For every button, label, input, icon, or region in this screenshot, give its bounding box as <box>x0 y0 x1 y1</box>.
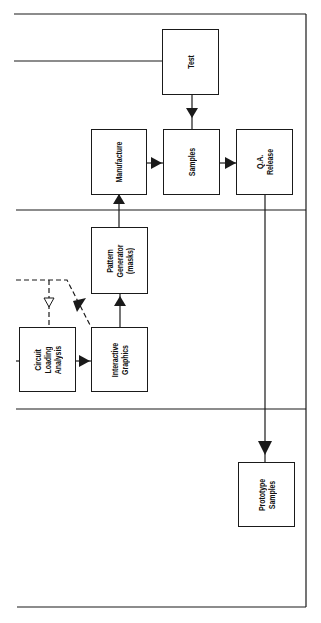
hollow-arrow-dashed-drop <box>44 298 54 307</box>
box-circuit-loading-analysis-label: Circuit Loading Analysis <box>33 341 63 377</box>
arrow-patterngen-to-manufacture <box>113 194 125 204</box>
arrow-test-to-samples <box>186 108 198 118</box>
box-manufacture: Manufacture <box>91 129 147 195</box>
box-pattern-generator: Pattern Generator (masks) <box>91 227 148 294</box>
box-samples: Samples <box>163 129 220 195</box>
box-prototype-samples: Prototype Samples <box>238 462 295 527</box>
box-interactive-graphics: Interactive Graphics <box>91 327 148 392</box>
box-samples-label: Samples <box>187 144 197 180</box>
arrow-dashed-feedback <box>73 298 86 312</box>
box-test-label: Test <box>186 53 196 70</box>
arrow-circuit-to-interactive <box>79 355 90 367</box>
arrow-interactive-to-patterngen <box>114 296 126 306</box>
arrow-qa-to-prototype <box>258 441 272 455</box>
box-qa-release: Q.A. Release <box>236 129 293 195</box>
box-pattern-generator-label: Pattern Generator (masks) <box>105 239 135 281</box>
arrow-samples-to-qa <box>225 157 236 169</box>
box-circuit-loading-analysis: Circuit Loading Analysis <box>19 327 76 392</box>
box-qa-release-label: Q.A. Release <box>255 145 275 178</box>
diagram-lines <box>0 0 321 623</box>
box-interactive-graphics-label: Interactive Graphics <box>110 338 130 382</box>
arrow-manufacture-to-samples <box>151 157 162 169</box>
box-manufacture-label: Manufacture <box>114 136 124 188</box>
box-prototype-samples-label: Prototype Samples <box>257 474 277 515</box>
box-test: Test <box>162 29 219 95</box>
